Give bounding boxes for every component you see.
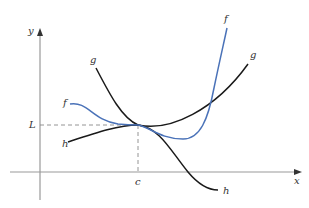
- L-label: L: [28, 119, 36, 130]
- c-label: c: [135, 176, 141, 187]
- y-axis-arrow-icon: [37, 28, 43, 36]
- curve-f-label-start: f: [62, 97, 69, 108]
- x-axis-label: x: [294, 175, 300, 186]
- curve-h-label-start: h: [62, 138, 68, 149]
- curve-g-label-start: g: [90, 54, 96, 65]
- curve-g: [96, 64, 248, 126]
- curve-g-label-end: g: [250, 49, 256, 60]
- curve-h-label-end: h: [223, 185, 229, 196]
- y-axis-label: y: [27, 25, 34, 36]
- curve-f-label-end: f: [223, 13, 230, 24]
- curve-f: [70, 28, 227, 139]
- squeeze-theorem-diagram: y x L c f f g g h h: [0, 0, 309, 208]
